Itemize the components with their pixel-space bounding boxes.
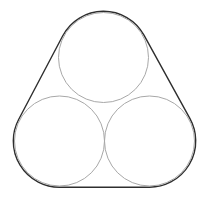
- circle-bottom-left: [15, 96, 105, 186]
- circle-top: [59, 13, 149, 103]
- tangent-circles-diagram: [0, 0, 209, 202]
- diagram-canvas: [0, 0, 209, 202]
- enclosing-band: [13, 11, 195, 187]
- circle-bottom-right: [105, 96, 195, 186]
